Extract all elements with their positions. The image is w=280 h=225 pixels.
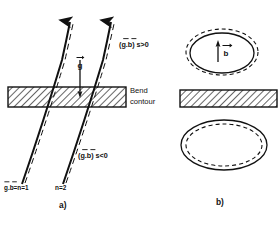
panel-a-label: a) [59, 200, 67, 210]
g-vector-label: g [77, 61, 82, 70]
n-equals-1-label: g.b=n=1 [4, 182, 29, 192]
panel-b-label: b) [216, 197, 224, 207]
bend-contour-band-b [180, 90, 277, 107]
lower-loop-solid-outer [181, 120, 267, 170]
dot-product-positive-label: (g.b) s>0 [119, 39, 149, 49]
bend-contour-band-a-rect [8, 87, 126, 107]
panel-b: b b) [180, 29, 277, 207]
dot-product-negative-text: (g.b) s<0 [78, 151, 108, 160]
bend-contour-line1: Bend [130, 86, 148, 95]
upper-loop-solid-inner [190, 33, 254, 73]
figure-canvas: g (g.b) s>0 (g.b) s<0 Bend contour g [0, 0, 280, 225]
b-vector-label: b [223, 49, 228, 58]
bend-contour-band-a [8, 87, 126, 107]
lower-dislocation-loop [181, 120, 267, 170]
lower-loop-dashed-inner [186, 124, 262, 166]
n-equals-2-label: n=2 [55, 184, 67, 191]
dot-product-positive-text: (g.b) s>0 [119, 40, 149, 49]
bend-contour-line2: contour [130, 97, 156, 106]
b-vector-overbar-tip [230, 44, 233, 48]
panel-a: g (g.b) s>0 (g.b) s<0 Bend contour g [4, 22, 156, 210]
n-equals-1-text: g.b=n=1 [4, 184, 29, 192]
bend-contour-figure: g (g.b) s>0 (g.b) s<0 Bend contour g [0, 0, 280, 225]
upper-loop-dashed-outer [186, 29, 258, 75]
g-vector-overbar-tip [82, 56, 84, 59]
bend-contour-band-b-rect [180, 90, 277, 107]
upper-dislocation-loop [186, 29, 258, 75]
bend-contour-caption: Bend contour [130, 86, 156, 106]
b-vector-arrow: b [216, 40, 233, 62]
dot-product-negative-label: (g.b) s<0 [78, 150, 108, 160]
